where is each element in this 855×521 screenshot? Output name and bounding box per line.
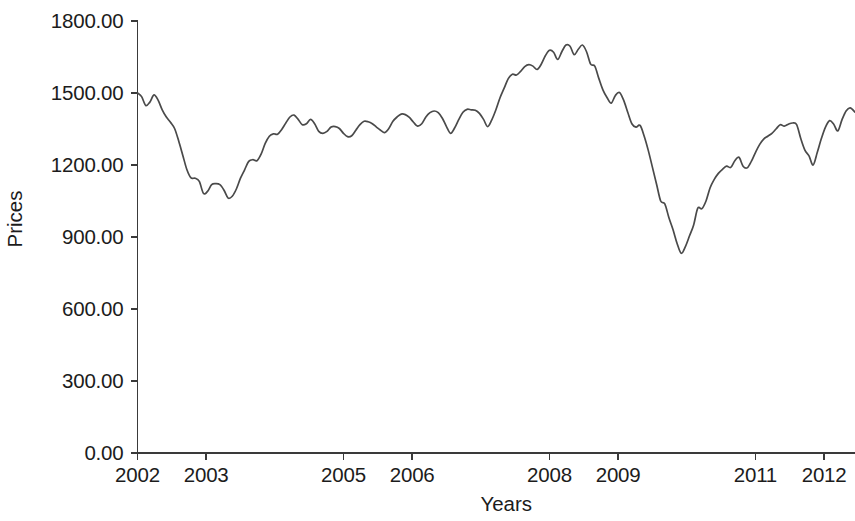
- x-axis-title: Years: [480, 492, 532, 515]
- x-tick-label: 2011: [734, 463, 777, 486]
- y-tick-label: 1500.00: [51, 81, 124, 104]
- x-tick-label: 2006: [390, 463, 435, 486]
- y-tick-label: 600.00: [62, 297, 124, 320]
- x-tick-label: 2003: [184, 463, 229, 486]
- x-tick-label: 2008: [527, 463, 572, 486]
- y-tick-label: 0.00: [84, 441, 123, 464]
- y-tick-label: 300.00: [62, 369, 124, 392]
- y-axis-tick-mark-group: [131, 21, 138, 453]
- y-tick-label: 900.00: [62, 225, 124, 248]
- y-tick-label: 1200.00: [51, 153, 124, 176]
- line-chart-figure: 0.00300.00600.00900.001200.001500.001800…: [0, 0, 855, 521]
- y-axis-tick-label-group: 0.00300.00600.00900.001200.001500.001800…: [51, 9, 124, 464]
- x-tick-label: 2009: [596, 463, 641, 486]
- x-tick-label: 2002: [115, 463, 160, 486]
- x-axis-tick-label-group: 20022003200520062008200920112012: [115, 463, 846, 486]
- x-tick-label: 2005: [321, 463, 366, 486]
- prices-series-line: [138, 45, 855, 254]
- x-tick-label: 2012: [802, 463, 847, 486]
- y-axis-title: Prices: [3, 191, 26, 248]
- y-tick-label: 1800.00: [51, 9, 124, 32]
- chart-canvas: 0.00300.00600.00900.001200.001500.001800…: [0, 0, 855, 521]
- x-axis-tick-mark-group: [138, 453, 825, 460]
